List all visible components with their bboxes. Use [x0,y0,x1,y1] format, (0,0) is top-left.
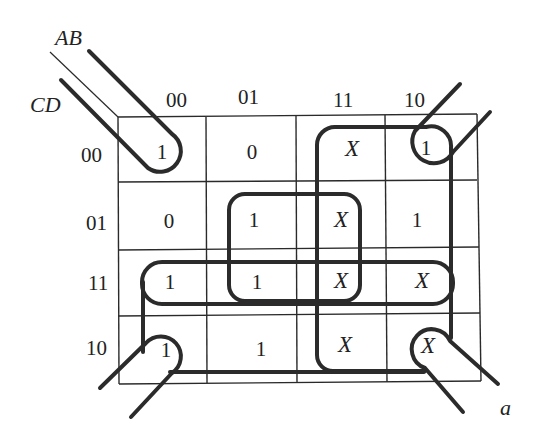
cell-11-10: X [414,268,430,293]
cell-10-10: X [420,333,436,358]
cell-10-11: X [337,332,353,357]
cell-00-00: 1 [157,140,168,164]
row-header-11: 11 [88,271,108,295]
cell-11-01: 1 [252,270,263,294]
row-header-01: 01 [86,211,107,235]
karnaugh-map: AB CD 00 01 11 10 00 01 11 10 1 0 X 1 0 … [0,0,539,435]
cell-01-11: X [333,207,349,232]
cell-01-10: 1 [412,208,423,232]
cell-01-01: 1 [249,208,260,232]
row-variables-label: CD [30,92,61,117]
col-header-10: 10 [404,88,425,112]
row-header-10: 10 [86,336,107,360]
col-header-01: 01 [238,85,259,109]
cell-11-00: 1 [165,270,176,294]
col-variables-label: AB [53,25,82,50]
grouping-loops [61,51,498,417]
col-header-11: 11 [333,88,353,112]
cell-10-01: 1 [256,337,267,361]
row-header-00: 00 [81,143,102,167]
col-header-00: 00 [166,88,187,112]
cell-10-00: 1 [161,338,172,362]
loop-right-block-left [317,127,425,371]
cell-01-00: 0 [164,209,175,233]
cell-00-10: 1 [421,136,432,160]
cell-00-01: 0 [247,140,258,164]
cell-11-11: X [333,268,349,293]
caption-label: a [500,395,511,420]
loop-row-11 [142,262,453,304]
cell-00-11: X [344,136,360,161]
